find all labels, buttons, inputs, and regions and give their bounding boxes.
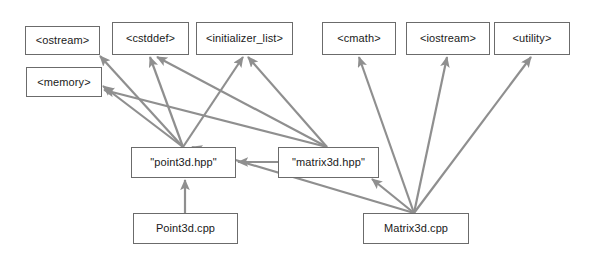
node-label-matrix3d_hpp: "matrix3d.hpp" bbox=[292, 157, 365, 168]
node-label-memory: <memory> bbox=[37, 77, 90, 88]
node-ostream[interactable]: <ostream> bbox=[25, 26, 100, 55]
edge-group bbox=[100, 56, 531, 213]
node-label-utility: <utility> bbox=[513, 33, 552, 44]
node-matrix3d_cpp[interactable]: Matrix3d.cpp bbox=[363, 213, 469, 244]
node-label-initializer_list: <initializer_list> bbox=[206, 33, 283, 44]
node-label-cstddef: <cstddef> bbox=[126, 33, 175, 44]
edge-point3d_hpp-to-ostream bbox=[100, 56, 183, 147]
include-dependency-diagram: <ostream><cstddef><initializer_list><cma… bbox=[0, 0, 591, 265]
edge-matrix3d_hpp-to-initializer_list bbox=[248, 57, 327, 147]
node-initializer_list[interactable]: <initializer_list> bbox=[196, 22, 293, 55]
node-cstddef[interactable]: <cstddef> bbox=[112, 22, 189, 55]
node-label-cmath: <cmath> bbox=[337, 33, 381, 44]
node-matrix3d_hpp[interactable]: "matrix3d.hpp" bbox=[278, 147, 379, 178]
node-point3d_cpp[interactable]: Point3d.cpp bbox=[133, 213, 238, 244]
node-iostream[interactable]: <iostream> bbox=[406, 22, 490, 55]
edge-matrix3d_hpp-to-cstddef bbox=[157, 57, 327, 147]
node-label-matrix3d_cpp: Matrix3d.cpp bbox=[384, 223, 448, 234]
edge-point3d_hpp-to-initializer_list bbox=[183, 57, 243, 147]
node-label-ostream: <ostream> bbox=[36, 35, 89, 46]
node-point3d_hpp[interactable]: "point3d.hpp" bbox=[131, 147, 236, 178]
node-label-iostream: <iostream> bbox=[420, 33, 476, 44]
node-label-point3d_hpp: "point3d.hpp" bbox=[150, 157, 217, 168]
node-label-point3d_cpp: Point3d.cpp bbox=[156, 223, 215, 234]
node-memory[interactable]: <memory> bbox=[26, 67, 102, 97]
node-cmath[interactable]: <cmath> bbox=[322, 22, 396, 55]
node-utility[interactable]: <utility> bbox=[494, 22, 570, 55]
